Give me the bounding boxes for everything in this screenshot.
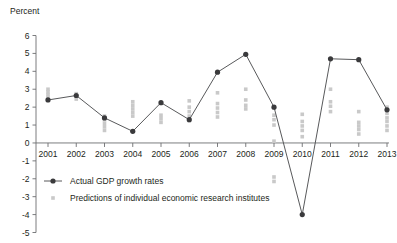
prediction-point (131, 107, 135, 111)
actual-point (384, 107, 389, 112)
y-tick-label: 6 (25, 31, 30, 41)
prediction-points-group (46, 87, 389, 183)
prediction-point (187, 110, 191, 114)
actual-point (271, 105, 276, 110)
legend-label-predictions: Predictions of individual economic resea… (70, 193, 269, 203)
legend: Actual GDP growth ratesPredictions of in… (44, 176, 269, 203)
x-tick-label: 2007 (208, 149, 227, 159)
prediction-point (357, 132, 361, 136)
prediction-point (357, 124, 361, 128)
actual-point (74, 93, 79, 98)
prediction-point (103, 121, 107, 125)
actual-point (45, 97, 50, 102)
prediction-point (329, 110, 333, 114)
chart-canvas: Percent6543210-1-2-3-4-52001200220032004… (0, 0, 397, 243)
prediction-point (131, 100, 135, 104)
x-tick-label: 2009 (265, 149, 284, 159)
y-tick-label: -3 (22, 192, 30, 202)
prediction-point (272, 118, 276, 122)
actual-line (48, 54, 387, 214)
gdp-growth-chart: Percent6543210-1-2-3-4-52001200220032004… (0, 0, 397, 243)
prediction-point (187, 105, 191, 109)
y-tick-label: -2 (22, 174, 30, 184)
x-tick-label: 2003 (95, 149, 114, 159)
prediction-point (131, 111, 135, 115)
actual-point (130, 129, 135, 134)
actual-point (187, 117, 192, 122)
legend-square-sample (51, 196, 55, 200)
prediction-point (272, 113, 276, 117)
y-tick-label: 5 (25, 48, 30, 58)
prediction-point (385, 124, 389, 128)
prediction-point (244, 87, 248, 91)
actual-point (243, 52, 248, 57)
prediction-point (385, 120, 389, 124)
prediction-point (216, 91, 220, 95)
prediction-point (159, 117, 163, 121)
actual-point (300, 212, 305, 217)
prediction-point (272, 180, 276, 184)
prediction-point (216, 102, 220, 106)
x-tick-label: 2006 (180, 149, 199, 159)
x-tick-label: 2013 (378, 149, 397, 159)
y-tick-label: 3 (25, 84, 30, 94)
y-axis-title: Percent (10, 6, 40, 16)
prediction-point (131, 114, 135, 118)
y-tick-label: 4 (25, 66, 30, 76)
prediction-point (244, 107, 248, 111)
x-tick-label: 2011 (321, 149, 340, 159)
prediction-point (329, 100, 333, 104)
prediction-point (300, 113, 304, 117)
prediction-point (244, 98, 248, 102)
x-tick-label: 2010 (293, 149, 312, 159)
prediction-point (385, 129, 389, 133)
legend-label-actual: Actual GDP growth rates (70, 176, 163, 186)
axes-group: 6543210-1-2-3-4-520012002200320042005200… (22, 31, 397, 238)
x-tick-label: 2002 (67, 149, 86, 159)
prediction-point (300, 129, 304, 133)
y-tick-label: 2 (25, 102, 30, 112)
actual-point (102, 115, 107, 120)
y-tick-label: 1 (25, 120, 30, 130)
prediction-point (357, 121, 361, 125)
prediction-point (103, 129, 107, 133)
y-tick-label: -5 (22, 228, 30, 238)
actual-point (356, 57, 361, 62)
prediction-point (216, 106, 220, 110)
y-tick-label: -4 (22, 210, 30, 220)
prediction-point (159, 121, 163, 125)
x-tick-label: 2008 (236, 149, 255, 159)
prediction-point (159, 113, 163, 117)
x-tick-label: 2001 (39, 149, 58, 159)
prediction-point (385, 116, 389, 120)
prediction-point (300, 135, 304, 139)
prediction-point (216, 115, 220, 119)
prediction-point (300, 124, 304, 128)
x-tick-label: 2004 (123, 149, 142, 159)
legend-dot-sample (50, 178, 55, 183)
prediction-point (272, 175, 276, 179)
actual-point (215, 70, 220, 75)
y-tick-label: -1 (22, 156, 30, 166)
actual-point (158, 100, 163, 105)
actual-point (328, 56, 333, 61)
prediction-point (244, 104, 248, 108)
prediction-point (103, 125, 107, 129)
y-tick-label: 0 (25, 138, 30, 148)
prediction-point (131, 104, 135, 108)
prediction-point (357, 110, 361, 114)
x-tick-label: 2012 (349, 149, 368, 159)
prediction-point (329, 87, 333, 91)
x-tick-label: 2005 (152, 149, 171, 159)
prediction-point (187, 99, 191, 103)
prediction-point (272, 123, 276, 127)
prediction-point (272, 139, 276, 143)
prediction-point (357, 128, 361, 132)
prediction-point (216, 111, 220, 115)
prediction-point (300, 120, 304, 124)
prediction-point (329, 104, 333, 108)
